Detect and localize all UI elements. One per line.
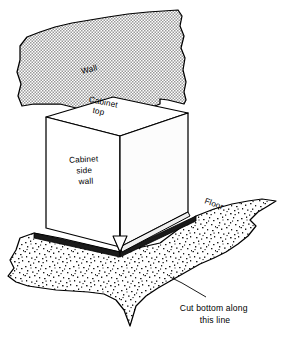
cabinet-cut-line-diagram: Wall Floor Cabinet top Cabinet side wall (0, 0, 284, 340)
illustration-canvas: Wall Floor Cabinet top Cabinet side wall (0, 0, 284, 340)
